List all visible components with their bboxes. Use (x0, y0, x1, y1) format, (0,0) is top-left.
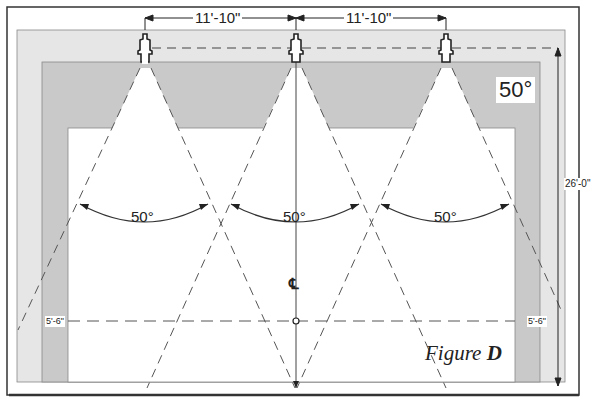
figure-title: Figure (425, 341, 481, 365)
centerline-height-left: 5'-6" (45, 316, 65, 327)
centerline-height-right: 5'-6" (527, 316, 547, 327)
figure-caption: Figure D (425, 343, 502, 364)
cone-angle-1: 50° (131, 209, 154, 224)
cone-angle-2: 50° (283, 209, 306, 224)
cone-angle-3: 50° (434, 209, 457, 224)
spacing-right-label: 11'-10" (344, 10, 393, 25)
spacing-left-label: 11'-10" (193, 10, 242, 25)
spray-angle-label: 50° (496, 77, 535, 103)
height-label: 26'-0" (564, 178, 591, 190)
spray-cones (79, 68, 511, 200)
centerline-symbol: ℄ (289, 276, 299, 291)
figure-letter: D (487, 341, 502, 365)
centerline-marker (293, 318, 299, 324)
